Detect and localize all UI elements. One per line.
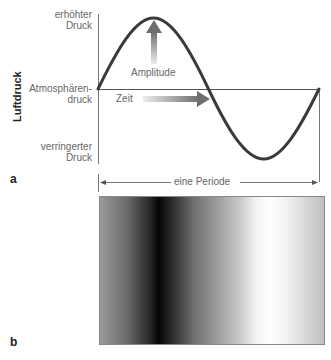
sine-wave [98, 18, 319, 159]
pressure-density-band [99, 196, 325, 345]
label-decreased-pressure: verringerter Druck [0, 141, 92, 163]
panel-label-a: a [10, 172, 17, 186]
label-increased-pressure: erhöhter Druck [0, 9, 92, 31]
panel-label-b: b [10, 335, 17, 349]
time-arrow [143, 91, 210, 107]
period-label: eine Periode [174, 176, 230, 187]
time-label: Zeit [116, 93, 133, 104]
y-axis-title: Luftdruck [11, 71, 23, 122]
amplitude-arrow [146, 20, 162, 64]
amplitude-label: Amplitude [131, 67, 175, 78]
